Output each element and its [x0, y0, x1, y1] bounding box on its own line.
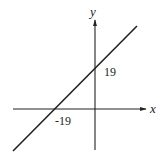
y-intercept-label: 19 [104, 65, 116, 79]
graph-line [13, 26, 137, 151]
graph: x y 19 -19 [0, 0, 165, 160]
x-axis-label: x [149, 101, 156, 116]
x-intercept-label: -19 [55, 114, 71, 128]
y-axis-label: y [88, 4, 96, 19]
